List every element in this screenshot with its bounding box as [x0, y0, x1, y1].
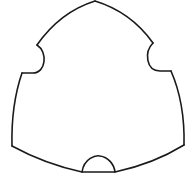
left-notch	[22, 45, 44, 73]
arc-top-to-left-upper	[37, 1, 95, 45]
arc-top-to-right-lower	[171, 71, 184, 145]
reuleaux-diagram	[0, 0, 195, 176]
arc-bottom-right	[115, 145, 184, 172]
reuleaux-outline	[12, 1, 184, 172]
notches	[22, 43, 171, 172]
bottom-notch	[82, 156, 115, 172]
arc-top-to-right-upper	[95, 1, 153, 43]
right-notch	[148, 43, 171, 71]
arc-bottom-left	[12, 146, 82, 172]
arc-top-to-left-lower	[12, 73, 22, 146]
